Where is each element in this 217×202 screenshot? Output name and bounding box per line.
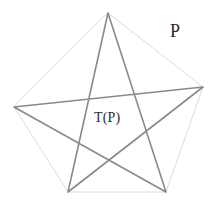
figure-canvas: P T(P) (0, 0, 217, 202)
geometry-svg (0, 0, 217, 202)
label-transform-tp: T(P) (94, 111, 120, 125)
label-pentagon-p: P (170, 22, 180, 40)
